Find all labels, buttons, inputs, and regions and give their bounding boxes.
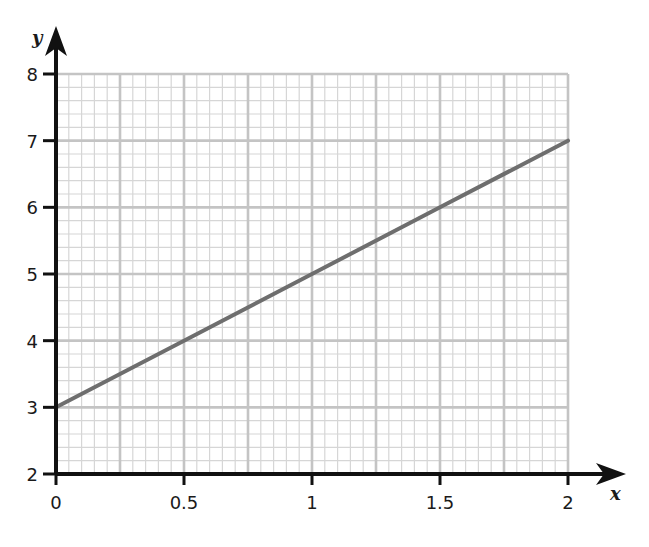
y-tick-label: 5 — [27, 264, 38, 285]
x-tick-label: 0 — [50, 492, 61, 513]
axes — [45, 26, 626, 485]
y-axis-ticks: 2345678 — [27, 64, 56, 485]
x-tick-label: 1.5 — [426, 492, 455, 513]
x-axis-ticks: 00.511.52 — [50, 474, 573, 513]
y-tick-label: 2 — [27, 464, 38, 485]
line-chart: 00.511.52 2345678 y x — [0, 0, 649, 547]
x-tick-label: 1 — [306, 492, 317, 513]
y-axis-label: y — [31, 27, 44, 48]
y-tick-label: 3 — [27, 397, 38, 418]
y-tick-label: 8 — [27, 64, 38, 85]
x-tick-label: 2 — [562, 492, 573, 513]
y-tick-label: 6 — [27, 197, 38, 218]
x-axis-label: x — [609, 483, 621, 504]
y-tick-label: 7 — [27, 131, 38, 152]
y-tick-label: 4 — [27, 331, 38, 352]
x-tick-label: 0.5 — [170, 492, 199, 513]
